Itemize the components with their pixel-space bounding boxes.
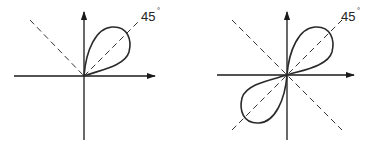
degree-symbol: ° xyxy=(157,6,160,15)
diagram-single-lobe: 45 ° xyxy=(14,6,160,140)
diagram-double-lobe: 45 ° xyxy=(217,6,360,140)
dashed-line-45 xyxy=(84,20,140,76)
angle-label: 45 xyxy=(141,9,155,24)
degree-symbol: ° xyxy=(357,6,360,15)
diagram-canvas: 45 ° 45 ° xyxy=(0,0,368,150)
angle-label: 45 xyxy=(341,9,355,24)
dashed-line-135 xyxy=(30,20,84,76)
lobe-third-quadrant xyxy=(241,75,287,123)
lobe-first-quadrant xyxy=(287,27,333,75)
